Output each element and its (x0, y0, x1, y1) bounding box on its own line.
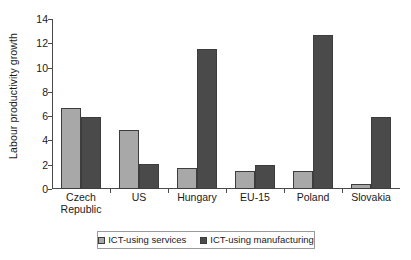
x-axis-category-label-line: US (132, 191, 147, 203)
y-axis-title-label: Labour productivity growth (7, 33, 19, 159)
x-axis-category-label-line: EU-15 (240, 191, 270, 203)
bar-manufacturing (81, 117, 101, 189)
y-axis-tick-label: 4 (26, 135, 48, 146)
bar-chart-figure: Labour productivity growth 02468101214 C… (0, 0, 411, 260)
legend-label: ICT-using services (108, 235, 186, 245)
x-axis-category-label-line: Slovakia (351, 191, 391, 203)
y-axis-tick-label: 0 (26, 184, 48, 195)
y-axis-tick-labels: 02468101214 (26, 19, 48, 189)
x-axis-category-label: US (110, 192, 168, 204)
x-axis-category-label: Hungary (168, 192, 226, 204)
bar-manufacturing (313, 35, 333, 189)
y-axis-tick-label: 8 (26, 87, 48, 98)
y-axis-tick-label: 14 (26, 14, 48, 25)
bar-group (351, 19, 391, 189)
bar-services (61, 108, 81, 189)
bar-group (119, 19, 159, 189)
bar-manufacturing (139, 164, 159, 190)
bar-manufacturing (197, 49, 217, 189)
bar-manufacturing (255, 165, 275, 189)
bar-group (235, 19, 275, 189)
legend-swatch-icon (98, 237, 105, 244)
plot-area (52, 19, 400, 189)
bar-services (351, 184, 371, 189)
bar-group (293, 19, 333, 189)
legend-entry[interactable]: ICT-using services (98, 235, 186, 245)
legend-swatch-icon (200, 237, 207, 244)
y-axis-tick-label: 10 (26, 62, 48, 73)
x-axis-category-label-line: Poland (297, 191, 330, 203)
bar-group (61, 19, 101, 189)
x-axis-category-label: CzechRepublic (52, 192, 110, 215)
legend-label: ICT-using manufacturing (210, 235, 314, 245)
legend-entry[interactable]: ICT-using manufacturing (200, 235, 314, 245)
bar-manufacturing (371, 117, 391, 189)
x-axis-category-label-line: Republic (52, 204, 110, 216)
bars-layer (52, 19, 400, 189)
bar-group (177, 19, 217, 189)
bar-services (293, 171, 313, 189)
bar-services (177, 168, 197, 189)
y-axis-tick-label: 6 (26, 111, 48, 122)
x-axis-category-label: EU-15 (226, 192, 284, 204)
y-axis-tick-label: 2 (26, 159, 48, 170)
chart-legend: ICT-using servicesICT-using manufacturin… (97, 231, 315, 249)
y-axis-tick-label: 12 (26, 38, 48, 49)
x-axis-category-label: Slovakia (342, 192, 400, 204)
x-axis-category-label-line: Hungary (177, 191, 217, 203)
y-axis-title: Labour productivity growth (0, 0, 26, 192)
x-axis-category-label-line: Czech (66, 191, 96, 203)
bar-services (235, 171, 255, 189)
bar-services (119, 130, 139, 189)
x-axis-category-labels: CzechRepublicUSHungaryEU-15PolandSlovaki… (52, 192, 400, 224)
y-axis-tickmark (48, 189, 52, 190)
x-axis-category-label: Poland (284, 192, 342, 204)
